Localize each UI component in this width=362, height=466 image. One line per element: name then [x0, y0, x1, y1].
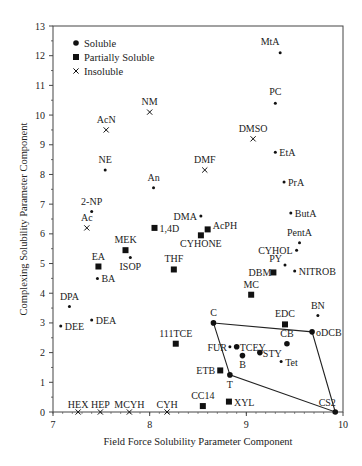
y-tick-label: 9: [40, 139, 45, 150]
soluble-dot-icon: [73, 40, 79, 46]
y-tick-label: 11: [35, 80, 45, 91]
point-label: XYL: [234, 397, 255, 408]
soluble-dot-icon: [59, 324, 62, 327]
point-label: NM: [142, 96, 158, 107]
x-tick-label: 8: [147, 419, 152, 430]
point-label: BN: [311, 300, 325, 311]
soluble-dot-icon: [332, 409, 338, 415]
x-tick-label: 7: [51, 419, 56, 430]
soluble-dot-icon: [129, 256, 132, 259]
point-label: B: [239, 359, 246, 370]
point-label: FUR: [207, 342, 227, 353]
soluble-dot-icon: [309, 329, 315, 335]
soluble-dot-icon: [283, 180, 286, 183]
partially-soluble-square-icon: [173, 341, 179, 347]
partially-soluble-square-icon: [152, 225, 158, 231]
partially-soluble-square-icon: [248, 292, 254, 298]
point-label: NE: [99, 154, 112, 165]
point-label: CYH: [157, 399, 178, 410]
point-label: CB: [280, 328, 294, 339]
soluble-dot-icon: [280, 360, 283, 363]
soluble-dot-icon: [104, 169, 107, 172]
x-tick-label: 9: [244, 419, 249, 430]
point-label: Tet: [285, 357, 298, 368]
soluble-dot-icon: [199, 215, 202, 218]
point-label: NITROB: [299, 266, 337, 277]
point-label: DEA: [96, 315, 117, 326]
point-label: 1,4D: [160, 223, 180, 234]
scatter-chart: 01234567891011121378910 MtAPCEtANEPrAAn2…: [0, 0, 362, 466]
y-tick-label: 5: [40, 258, 45, 269]
partially-soluble-square-icon: [171, 266, 177, 272]
point-label: oDCB: [316, 327, 342, 338]
partially-soluble-square-icon: [217, 367, 223, 373]
point-label: AcPH: [213, 220, 237, 231]
y-tick-label: 6: [40, 228, 45, 239]
soluble-dot-icon: [257, 350, 263, 356]
soluble-dot-icon: [211, 320, 217, 326]
point-label: DEE: [65, 321, 84, 332]
soluble-dot-icon: [228, 345, 231, 348]
y-tick-label: 3: [40, 317, 45, 328]
point-label: CC14: [191, 390, 214, 401]
point-label: ETB: [196, 365, 215, 376]
point-label: ISOP: [119, 261, 141, 272]
data-point: T: [227, 372, 233, 390]
soluble-dot-icon: [152, 186, 155, 189]
point-label: PC: [269, 86, 282, 97]
point-label: Ac: [81, 212, 93, 223]
point-label: DMF: [194, 154, 216, 165]
point-label: HEP: [91, 399, 110, 410]
soluble-dot-icon: [240, 353, 246, 359]
soluble-dot-icon: [293, 269, 296, 272]
soluble-dot-icon: [284, 264, 287, 267]
point-label: MtA: [261, 36, 281, 47]
soluble-dot-icon: [234, 344, 240, 350]
point-label: 111TCE: [159, 328, 192, 339]
y-tick-label: 10: [35, 110, 45, 121]
soluble-dot-icon: [284, 341, 290, 347]
point-label: MCYH: [114, 399, 144, 410]
soluble-dot-icon: [295, 249, 298, 252]
soluble-dot-icon: [279, 51, 282, 54]
partially-soluble-square-icon: [200, 403, 206, 409]
point-label: BA: [101, 273, 116, 284]
y-axis-label: Complexing Solubility Parameter Componen…: [18, 123, 29, 316]
soluble-dot-icon: [90, 318, 93, 321]
x-axis-label: Field Force Solubility Parameter Compone…: [104, 436, 293, 447]
point-label: PY: [269, 253, 282, 264]
soluble-dot-icon: [68, 305, 71, 308]
soluble-dot-icon: [96, 277, 99, 280]
partially-soluble-square-icon: [95, 264, 101, 270]
point-label: CS2: [319, 397, 336, 408]
legend-entry-label: Soluble: [84, 38, 116, 49]
y-tick-label: 4: [40, 288, 45, 299]
soluble-dot-icon: [274, 102, 277, 105]
point-label: STY: [263, 348, 282, 359]
soluble-dot-icon: [289, 212, 292, 215]
point-label: 2-NP: [81, 196, 103, 207]
point-label: EtA: [279, 147, 296, 158]
point-label: PrA: [288, 177, 305, 188]
point-label: DBM: [249, 267, 272, 278]
y-tick-label: 8: [40, 169, 45, 180]
point-label: DMA: [174, 211, 198, 222]
y-tick-label: 7: [40, 199, 45, 210]
soluble-dot-icon: [298, 241, 301, 244]
x-tick-label: 10: [338, 419, 348, 430]
point-label: C: [210, 307, 217, 318]
point-label: DPA: [60, 291, 80, 302]
legend-entry-label: Insoluble: [84, 66, 123, 77]
point-label: CYHONE: [180, 238, 222, 249]
partially-soluble-square-icon: [226, 399, 232, 405]
point-label: AcN: [97, 114, 116, 125]
point-label: EDC: [275, 308, 295, 319]
y-tick-label: 13: [35, 21, 45, 32]
point-label: T: [227, 379, 233, 390]
point-label: DMSO: [239, 123, 268, 134]
data-point: B: [239, 353, 246, 370]
point-label: EA: [92, 251, 106, 262]
point-label: THF: [164, 253, 183, 264]
partially-soluble-square-icon: [205, 226, 211, 232]
partially-soluble-square-icon: [282, 321, 288, 327]
